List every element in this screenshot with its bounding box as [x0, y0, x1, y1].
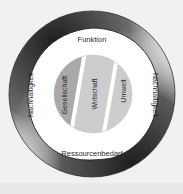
label-umwelt: Umwelt — [120, 79, 127, 102]
label-nachhaltigkeit-right: Nachhaltigkeit — [151, 73, 159, 117]
label-nachhaltigkeit-left: Nachhaltigkeit — [27, 73, 35, 117]
label-ressourcenbedarf: Ressourcenbedarf — [61, 149, 123, 158]
label-funktion: Funktion — [78, 35, 107, 44]
sustainability-diagram: Funktion Ressourcenbedarf Gesellschaft W… — [0, 0, 183, 194]
label-wirtschaft: Wirtschaft — [91, 78, 98, 109]
label-gesellschaft: Gesellschaft — [61, 76, 68, 115]
